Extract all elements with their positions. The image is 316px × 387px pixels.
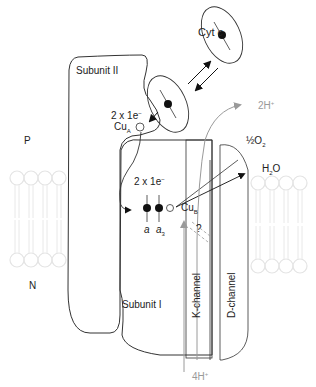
p-side-label: P <box>24 136 31 146</box>
k-channel-box <box>186 140 212 358</box>
cytochrome-oxidase-diagram <box>0 0 316 387</box>
heme-a <box>143 204 151 212</box>
water-label: H2O <box>262 164 280 176</box>
subunit-ii-label: Subunit II <box>76 66 118 76</box>
cu-b-center <box>167 205 174 212</box>
membrane-right <box>251 176 307 273</box>
cu-a-center <box>136 123 144 131</box>
subunit-i-label: Subunit I <box>122 300 161 310</box>
pumped-protons-label: 2H+ <box>258 100 274 111</box>
d-channel-outline <box>220 145 248 360</box>
cu-a-label: CuA <box>114 122 131 134</box>
heme-a3 <box>155 204 163 212</box>
cu-b-label: CuB <box>181 203 198 215</box>
half-o2-label: ½O2 <box>246 136 265 148</box>
n-side-label: N <box>29 281 36 291</box>
electrons-top-label: 2 x 1e− <box>111 110 142 121</box>
pumped-proton-path <box>197 105 240 360</box>
unknown-path-label: ? <box>196 224 202 234</box>
substrate-protons-label: 4H+ <box>192 371 208 382</box>
electrons-mid-label: 2 x 1e− <box>134 176 165 187</box>
membrane-left <box>10 171 66 267</box>
cyt-c-label: Cyt c <box>198 27 223 38</box>
heme-a3-label: a3 <box>156 225 165 237</box>
subunit-ii-outline <box>68 55 160 333</box>
heme-a-label: a <box>144 225 150 235</box>
d-channel-label: D-channel <box>227 272 237 318</box>
subunit-i-outline <box>120 140 212 355</box>
k-channel-label: K-channel <box>192 273 202 318</box>
